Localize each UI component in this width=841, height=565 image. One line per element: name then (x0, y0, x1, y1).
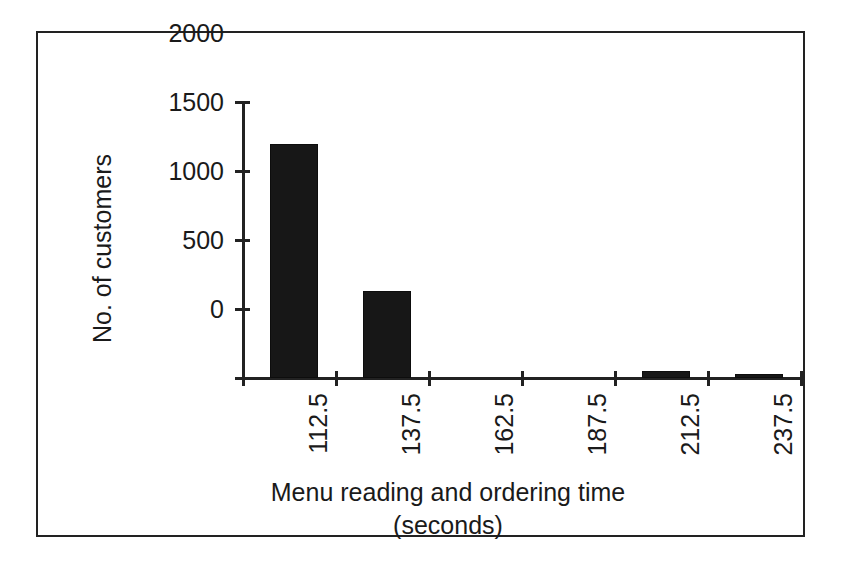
y-tick-label-1000: 1000 (114, 159, 224, 184)
y-tick-label-2000: 2000 (114, 21, 224, 46)
x-tick-mark-6 (800, 371, 803, 386)
x-tick-mark-3 (521, 371, 524, 386)
x-category-label-3: 187.5 (585, 393, 610, 456)
x-tick-mark-2 (428, 371, 431, 386)
x-tick-mark-4 (614, 371, 617, 386)
x-category-label-4: 212.5 (678, 393, 703, 456)
y-axis-title: No. of customers (90, 154, 115, 343)
y-tick-label-1500: 1500 (114, 90, 224, 115)
y-tick-label-0: 0 (114, 297, 224, 322)
y-tick-mark-1500 (235, 170, 250, 173)
x-tick-mark-0 (242, 371, 245, 386)
y-tick-mark-2000 (235, 101, 250, 104)
bar-112.5 (270, 144, 318, 378)
y-tick-label-500: 500 (114, 228, 224, 253)
bar-237.5 (735, 374, 783, 378)
x-axis-title-line2: (seconds) (188, 509, 708, 542)
bar-137.5 (363, 291, 411, 378)
chart-page: No. of customers 2000 1500 1000 500 0 (0, 0, 841, 565)
bar-212.5 (642, 371, 690, 378)
figure-frame: No. of customers 2000 1500 1000 500 0 (36, 31, 805, 537)
y-axis-tick-labels: 2000 1500 1000 500 0 (114, 33, 224, 535)
x-category-label-0: 112.5 (306, 393, 331, 454)
x-axis-title-line1: Menu reading and ordering time (188, 476, 708, 509)
x-tick-mark-5 (707, 371, 710, 386)
x-axis-title: Menu reading and ordering time (seconds) (188, 476, 708, 542)
y-tick-mark-1000 (235, 239, 250, 242)
y-tick-mark-500 (235, 308, 250, 311)
x-category-label-2: 162.5 (492, 393, 517, 456)
x-tick-mark-1 (335, 371, 338, 386)
x-category-label-1: 137.5 (399, 393, 424, 456)
x-category-label-5: 237.5 (771, 393, 796, 456)
